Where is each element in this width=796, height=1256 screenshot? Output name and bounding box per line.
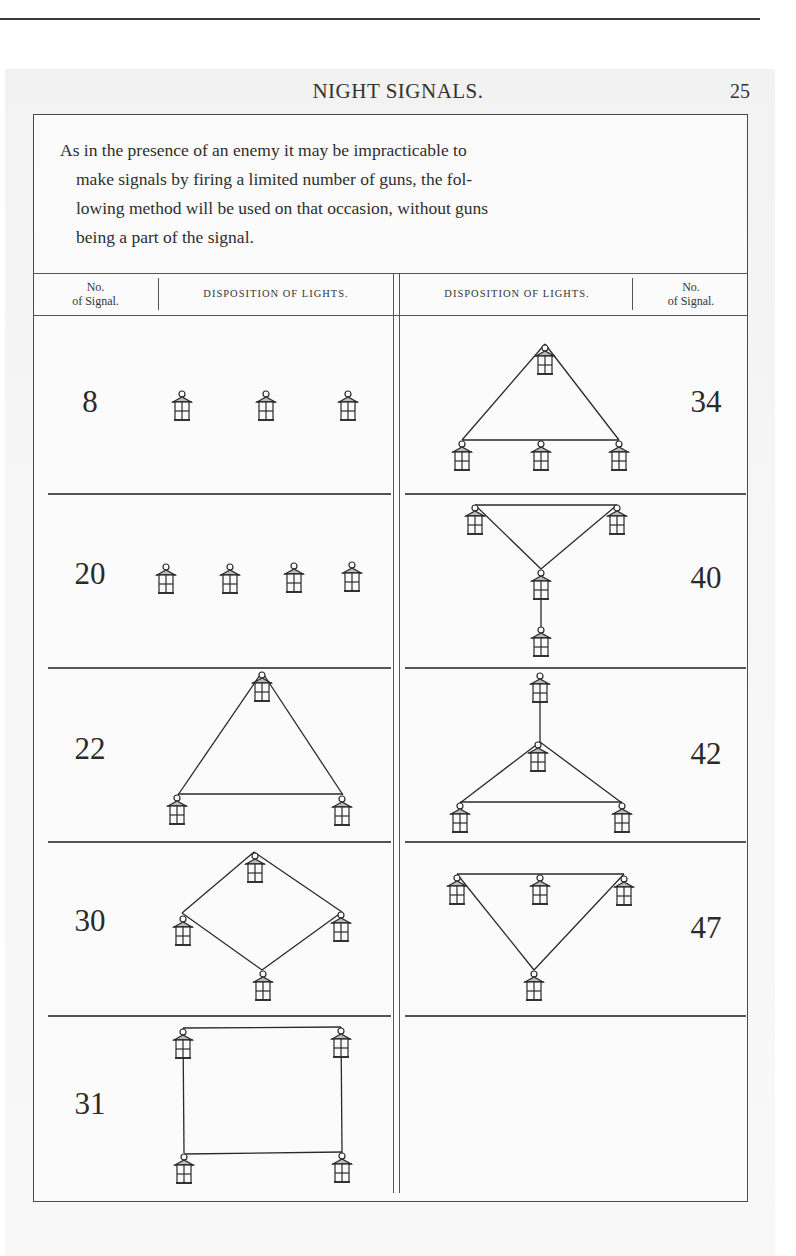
signal-22-lanterns bbox=[167, 672, 352, 825]
light-dispositions-diagram bbox=[0, 0, 796, 1256]
connecting-lines bbox=[178, 344, 624, 1154]
signal-42-lanterns bbox=[450, 673, 632, 832]
signal-8-lanterns bbox=[172, 391, 358, 420]
signal-31-lanterns bbox=[173, 1028, 352, 1183]
signal-30-lanterns bbox=[173, 853, 351, 1000]
signal-34-lanterns bbox=[452, 345, 629, 470]
signal-40-lanterns bbox=[465, 505, 627, 656]
signal-20-lanterns bbox=[156, 562, 362, 593]
